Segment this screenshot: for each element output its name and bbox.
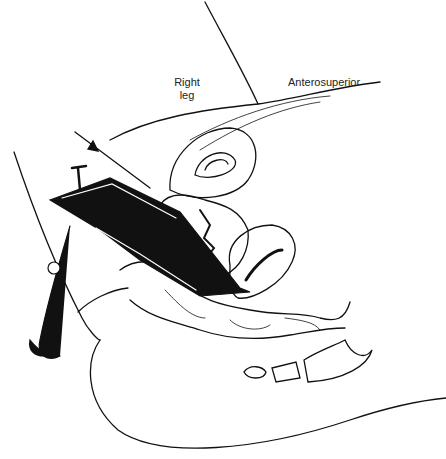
body-outline — [205, 2, 258, 104]
abdomen-outline — [110, 82, 380, 140]
diagram: Right leg Anterosuperior — [0, 0, 446, 459]
label-anterosuperior: Anterosuperior — [288, 76, 360, 89]
label-right-leg: Right leg — [170, 76, 204, 102]
coccyx-1 — [244, 367, 266, 378]
rectum — [120, 262, 350, 338]
label-right: Right — [174, 76, 200, 88]
thumb-screw — [72, 166, 86, 190]
speculum-handle — [39, 226, 70, 358]
pelvis-speculum-illustration — [0, 0, 446, 459]
coccyx-2 — [272, 362, 300, 382]
bladder — [170, 128, 256, 198]
sacrum — [304, 340, 372, 382]
label-leg: leg — [180, 89, 195, 101]
